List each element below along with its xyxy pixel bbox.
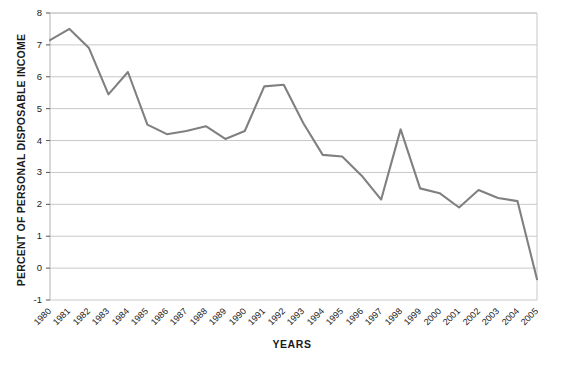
data-series-line bbox=[50, 29, 537, 279]
line-chart: PERCENT OF PERSONAL DISPOSABLE INCOME 87… bbox=[0, 0, 584, 365]
plot-frame bbox=[50, 13, 537, 300]
x-axis-title: YEARS bbox=[0, 338, 584, 350]
axis-tickmarks bbox=[46, 13, 50, 300]
gridlines bbox=[50, 13, 537, 300]
plot-area bbox=[0, 0, 584, 365]
